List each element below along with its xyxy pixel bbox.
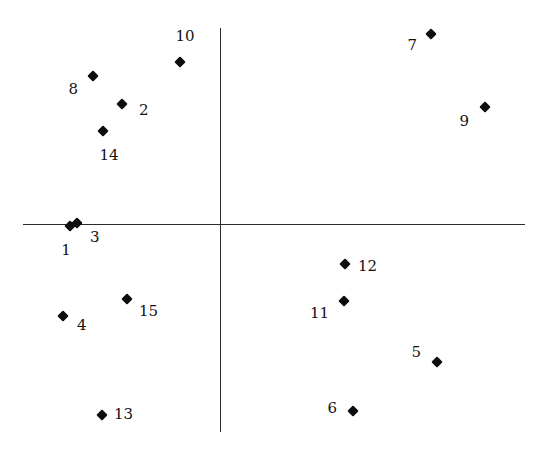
data-point-marker: [431, 356, 442, 367]
data-point-marker: [347, 405, 358, 416]
data-point-label: 14: [99, 148, 118, 163]
data-point-label: 1: [61, 243, 71, 258]
data-point-label: 3: [90, 230, 100, 245]
y-axis-line: [220, 28, 221, 432]
data-point-marker: [425, 28, 436, 39]
data-point-marker: [338, 295, 349, 306]
data-point-label: 15: [139, 304, 158, 319]
x-axis-line: [23, 224, 525, 225]
data-point-marker: [479, 101, 490, 112]
data-point-label: 13: [114, 407, 133, 422]
data-point-marker: [174, 56, 185, 67]
data-point-label: 11: [310, 306, 329, 321]
data-point-label: 2: [139, 103, 149, 118]
data-point-label: 12: [358, 259, 377, 274]
data-point-label: 8: [68, 82, 78, 97]
data-point-label: 7: [407, 38, 417, 53]
data-point-label: 10: [175, 29, 194, 44]
data-point-marker: [57, 310, 68, 321]
data-point-marker: [96, 409, 107, 420]
partial-caption: .: [0, 441, 546, 449]
data-point-marker: [97, 125, 108, 136]
data-point-label: 5: [411, 345, 421, 360]
scatter-plot-figure: 123456789101112131415 .: [0, 0, 546, 449]
data-point-label: 4: [77, 318, 87, 333]
data-point-marker: [339, 258, 350, 269]
data-point-label: 9: [459, 114, 469, 129]
data-point-label: 6: [327, 401, 337, 416]
data-point-marker: [116, 98, 127, 109]
data-point-marker: [121, 293, 132, 304]
data-point-marker: [87, 70, 98, 81]
